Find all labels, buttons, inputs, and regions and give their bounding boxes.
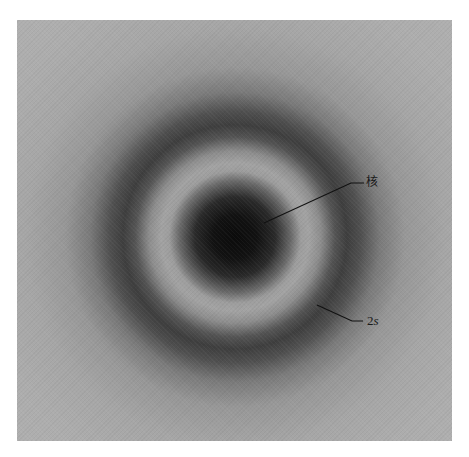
orbital-letter: s — [374, 313, 379, 328]
nucleus-label: 核 — [366, 176, 378, 188]
2s-orbital-label: 2s — [367, 314, 379, 327]
image-grain-texture — [17, 20, 452, 441]
orbital-density-image — [17, 20, 452, 441]
figure-canvas: 核 2s — [0, 0, 469, 457]
